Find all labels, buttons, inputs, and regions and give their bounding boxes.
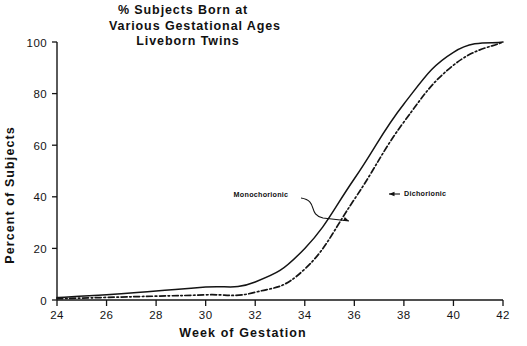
y-tick-label: 40 [33, 191, 47, 203]
chart-figure: % Subjects Born at Various Gestational A… [0, 0, 527, 346]
x-tick-label: 36 [348, 309, 362, 321]
y-tick-label: 80 [33, 88, 47, 100]
x-tick-label: 32 [248, 309, 262, 321]
series-annotation-label: Dichorionic [404, 189, 446, 198]
x-tick-label: 38 [397, 309, 411, 321]
x-tick-label: 26 [100, 309, 114, 321]
y-tick-label: 60 [33, 140, 47, 152]
x-axis-title: Week of Gestation [179, 326, 307, 340]
x-tick-label: 40 [447, 309, 461, 321]
x-tick-label: 24 [50, 309, 64, 321]
chart-title-line-2: Various Gestational Ages [109, 19, 281, 33]
y-tick-label: 0 [40, 295, 47, 307]
chart-background [0, 0, 527, 346]
chart-title-line-3: Liveborn Twins [136, 34, 239, 48]
series-annotation-label: Monochorionic [234, 190, 289, 199]
y-axis-title: Percent of Subjects [3, 126, 17, 264]
x-tick-label: 28 [149, 309, 163, 321]
y-tick-label: 100 [27, 37, 47, 49]
x-tick-label: 42 [496, 309, 510, 321]
x-tick-label: 34 [298, 309, 312, 321]
y-tick-label: 20 [33, 243, 47, 255]
chart-title-line-1: % Subjects Born at [118, 3, 248, 17]
chart-container: % Subjects Born at Various Gestational A… [0, 0, 527, 346]
x-tick-label: 30 [199, 309, 213, 321]
